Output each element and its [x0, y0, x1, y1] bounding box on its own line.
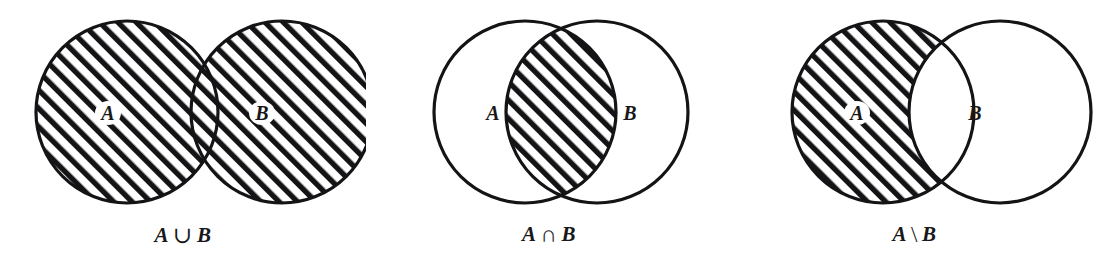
union-operator-icon: ∪ [169, 222, 197, 249]
union-diagram: A B [0, 0, 366, 215]
set-label-b: B [622, 102, 636, 124]
caption-union-right: B [197, 223, 212, 247]
intersection-diagram: A B [366, 0, 732, 215]
caption-union: A∪B [0, 222, 366, 249]
caption-difference: A\B [732, 222, 1097, 248]
caption-difference-left: A [893, 222, 908, 246]
panel-difference: A B A\B [732, 0, 1097, 267]
set-label-a: A [484, 102, 499, 124]
set-label-b: B [254, 102, 268, 124]
venn-diagram-figure: A B A∪B A B A∩B [0, 0, 1097, 267]
caption-difference-right: B [922, 222, 937, 246]
union-shaded-region [36, 21, 366, 203]
set-label-a: A [848, 102, 863, 124]
caption-intersection-left: A [522, 222, 537, 246]
set-difference-operator-icon: \ [907, 222, 922, 248]
set-label-b: B [967, 102, 981, 124]
intersection-operator-icon: ∩ [536, 222, 561, 248]
caption-intersection: A∩B [366, 222, 732, 248]
panel-intersection: A B A∩B [366, 0, 732, 267]
panel-union: A B A∪B [0, 0, 366, 267]
caption-intersection-right: B [562, 222, 577, 246]
caption-union-left: A [155, 223, 170, 247]
set-label-a: A [99, 102, 114, 124]
difference-diagram: A B [732, 0, 1097, 215]
